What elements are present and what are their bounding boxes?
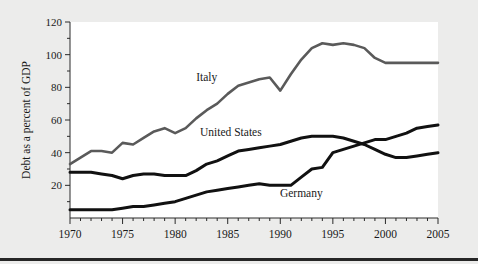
y-tick-label: 60 bbox=[51, 114, 63, 126]
axis-title-group: Debt as a percent of GDP bbox=[20, 61, 33, 179]
x-tick-label: 1995 bbox=[321, 228, 344, 240]
bottom-rule bbox=[0, 258, 478, 261]
y-tick-label: 80 bbox=[51, 81, 63, 93]
series-line-italy bbox=[70, 43, 438, 164]
y-tick-label: 20 bbox=[51, 179, 63, 191]
series-label-italy: Italy bbox=[196, 71, 217, 84]
line-chart: 20406080100120 1970197519801985199019952… bbox=[0, 0, 478, 264]
x-axis: 19701975198019851990199520002005 bbox=[59, 218, 450, 240]
x-tick-label: 1985 bbox=[216, 228, 239, 240]
x-tick-label: 1975 bbox=[111, 228, 134, 240]
x-tick-label: 1990 bbox=[269, 228, 292, 240]
y-axis-title: Debt as a percent of GDP bbox=[20, 61, 33, 179]
series-labels-group: ItalyUnited StatesGermany bbox=[196, 71, 323, 200]
x-tick-label: 1980 bbox=[164, 228, 187, 240]
y-axis: 20406080100120 bbox=[46, 16, 71, 218]
y-tick-label: 100 bbox=[46, 49, 63, 61]
series-label-united-states: United States bbox=[200, 126, 262, 138]
y-tick-label: 40 bbox=[51, 147, 63, 159]
figure-container: 20406080100120 1970197519801985199019952… bbox=[0, 0, 478, 264]
x-tick-label: 1970 bbox=[59, 228, 82, 240]
x-tick-label: 2000 bbox=[374, 228, 397, 240]
series-label-germany: Germany bbox=[280, 187, 323, 200]
x-tick-label: 2005 bbox=[427, 228, 450, 240]
y-tick-label: 120 bbox=[46, 16, 63, 28]
